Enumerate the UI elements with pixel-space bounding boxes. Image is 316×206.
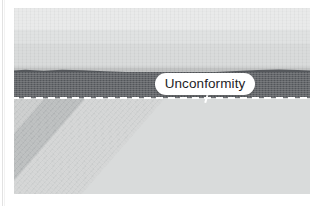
- unconformity-dashed-line: [14, 97, 310, 99]
- geologic-cross-section-figure: Unconformity: [14, 8, 310, 194]
- upper-bed-1-texture: [14, 8, 310, 30]
- scan-artifact-line-2: [4, 0, 5, 206]
- upper-bed-2-texture: [14, 30, 310, 44]
- horizontal-strata-group: [14, 8, 310, 72]
- scan-artifact-line: [2, 0, 3, 206]
- upper-bed-3: [14, 44, 310, 66]
- unconformity-label-pill[interactable]: Unconformity: [155, 73, 255, 95]
- upper-bed-2: [14, 30, 310, 44]
- unconformity-label-text: Unconformity: [165, 77, 246, 91]
- upper-bed-1: [14, 8, 310, 30]
- screenshot-canvas: Unconformity: [0, 0, 316, 206]
- upper-bed-3-texture: [14, 44, 310, 66]
